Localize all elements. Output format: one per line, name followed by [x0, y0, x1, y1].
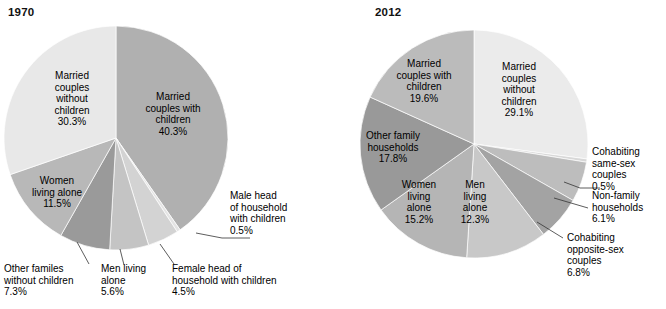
chart-title-1970: 1970 [8, 6, 34, 18]
slice-label-line: children [406, 81, 441, 92]
slice-label-line: couples [55, 82, 89, 93]
slice-label-line: 19.6% [410, 93, 438, 104]
slice-label-line: 12.3% [461, 214, 489, 225]
slice-label-line: living [408, 191, 431, 202]
slice-label-line: 4.5% [172, 286, 195, 297]
slice-label-line: without [55, 93, 88, 104]
slice-label-line: Male head [230, 190, 277, 201]
slice-label-line: children [501, 96, 536, 107]
slice-label-line: 6.8% [567, 267, 590, 278]
slice-label-line: Women [40, 175, 74, 186]
slice-label: Womenlivingalone15.2% [402, 179, 436, 225]
slice-label-line: of household [230, 202, 287, 213]
slice-label-line: 40.3% [159, 126, 187, 137]
slice-label-line: 11.5% [43, 198, 71, 209]
slice-label-line: opposite-sex [567, 244, 624, 255]
slice-label-line: 5.6% [101, 286, 124, 297]
slice-label-line: households [367, 142, 418, 153]
slice-label-line: same-sex [592, 158, 635, 169]
slice-label-line: couples with [145, 103, 200, 114]
slice-label-line: Married [502, 61, 536, 72]
slice-label-line: children [155, 114, 190, 125]
slice-label-line: Married [55, 70, 89, 81]
chart-title-2012: 2012 [375, 6, 401, 18]
slice-label-line: Married [156, 91, 190, 102]
slice-label-line: alone [101, 275, 126, 286]
slice-label-line: Cohabiting [567, 232, 615, 243]
slice-label-line: 29.1% [505, 107, 533, 118]
slice-label-line: 17.8% [379, 153, 407, 164]
slice-label-line: Other familes [4, 263, 63, 274]
slice-label-line: couples [502, 73, 536, 84]
slice-label-line: Cohabiting [592, 146, 640, 157]
slice-label-line: living [464, 191, 487, 202]
slice-label-line: households [592, 202, 643, 213]
slice-label-line: Non-family [592, 190, 640, 201]
slice-label-line: 15.2% [405, 214, 433, 225]
slice-label-line: 0.5% [230, 225, 253, 236]
slice-label-line: Married [407, 58, 441, 69]
two-pie-chart-figure: 1970 Marriedcouples withchildren40.3%Mal… [0, 0, 666, 309]
slice-label-line: couples [567, 255, 601, 266]
slice-label: Marriedcoupleswithoutchildren29.1% [501, 61, 536, 118]
slice-label-line: household with children [172, 275, 277, 286]
slice-label-line: 30.3% [58, 116, 86, 127]
slice-label-line: Female head of [172, 263, 242, 274]
slice-label-line: without [502, 84, 535, 95]
slice-label-line: with children [229, 213, 286, 224]
slice-label-line: couples [592, 169, 626, 180]
slice-label-line: living alone [32, 187, 82, 198]
slice-label-line: Women [402, 179, 436, 190]
slice-label-line: alone [407, 202, 432, 213]
slice-label-line: couples with [396, 70, 451, 81]
slice-label-line: alone [463, 202, 488, 213]
slice-label-line: Men living [101, 263, 146, 274]
slice-label-line: 6.1% [592, 213, 615, 224]
slice-label-line: Other family [366, 130, 420, 141]
pie-slices-1970 [4, 26, 228, 250]
slice-label-line: Men [465, 179, 484, 190]
slice-label-line: without children [3, 275, 73, 286]
slice-label-line: 7.3% [4, 286, 27, 297]
slice-label: Marriedcoupleswithoutchildren30.3% [54, 70, 89, 127]
slice-label-line: children [54, 105, 89, 116]
